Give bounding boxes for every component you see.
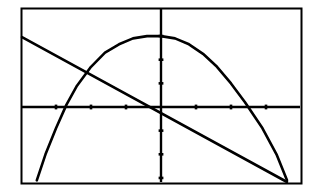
graph-canvas: [0, 0, 313, 189]
plot-background: [0, 0, 313, 189]
calculator-screen: [0, 0, 313, 189]
